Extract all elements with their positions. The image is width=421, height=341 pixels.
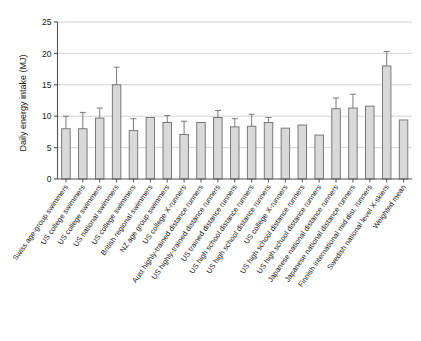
y-axis-title: Daily energy intake (MJ) [18, 54, 28, 151]
bar [146, 117, 155, 179]
y-tick-label: 20 [42, 49, 52, 59]
bar [281, 128, 290, 179]
bar [62, 129, 71, 179]
y-tick-label: 10 [42, 111, 52, 121]
bar [129, 131, 138, 179]
bar [79, 129, 88, 179]
bar [197, 122, 206, 179]
bar [247, 126, 256, 179]
y-tick-label: 0 [47, 174, 52, 184]
bar [264, 122, 273, 179]
y-tick-label: 15 [42, 80, 52, 90]
y-axis-ticks: 0510152025 [42, 17, 57, 184]
bar [180, 134, 189, 179]
chart-container: 0510152025 Swiss age-group swimmersUS co… [0, 0, 421, 341]
bar [95, 118, 104, 179]
y-tick-label: 5 [47, 143, 52, 153]
y-tick-label: 25 [42, 17, 52, 27]
bar [231, 127, 240, 179]
bar [332, 109, 341, 179]
x-axis-labels: Swiss age-group swimmersUS college swimm… [11, 179, 408, 289]
bar [315, 135, 324, 179]
bar [349, 108, 358, 179]
bar [163, 122, 172, 179]
bar [298, 125, 307, 179]
bar [382, 66, 391, 179]
bar [214, 117, 223, 179]
bar [112, 85, 121, 179]
bar [366, 106, 375, 179]
bar-chart: 0510152025 Swiss age-group swimmersUS co… [0, 0, 421, 341]
bar [399, 120, 408, 179]
